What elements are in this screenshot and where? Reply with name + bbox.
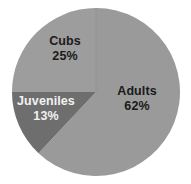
pie-label-cubs-name: Cubs	[34, 34, 96, 49]
pie-label-cubs-value: 25%	[34, 49, 96, 64]
pie-label-adults: Adults 62%	[106, 84, 168, 113]
pie-label-cubs: Cubs 25%	[34, 34, 96, 63]
pie-label-juveniles-value: 13%	[4, 109, 88, 124]
pie-label-adults-name: Adults	[106, 84, 168, 99]
pie-label-juveniles: Juveniles 13%	[4, 94, 88, 123]
pie-label-adults-value: 62%	[106, 99, 168, 114]
pie-label-juveniles-name: Juveniles	[4, 94, 88, 109]
pie-chart: Cubs 25% Adults 62% Juveniles 13%	[0, 0, 191, 184]
